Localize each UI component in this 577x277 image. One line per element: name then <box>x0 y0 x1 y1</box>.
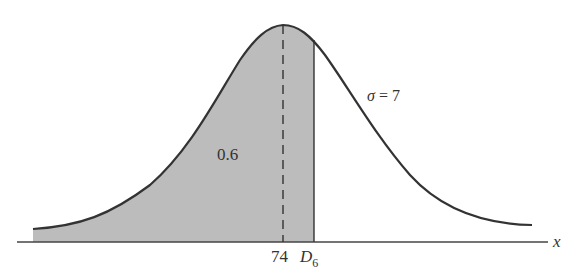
sigma-label: σ = 7 <box>367 87 400 104</box>
area-label: 0.6 <box>217 145 238 164</box>
mean-tick-label: 74 <box>271 247 289 266</box>
normal-distribution-diagram: 0.6 σ = 7 74 D6 x <box>0 0 577 277</box>
x-axis-label: x <box>552 232 561 251</box>
d6-tick-label: D6 <box>299 247 318 270</box>
shaded-area-region <box>33 25 314 242</box>
